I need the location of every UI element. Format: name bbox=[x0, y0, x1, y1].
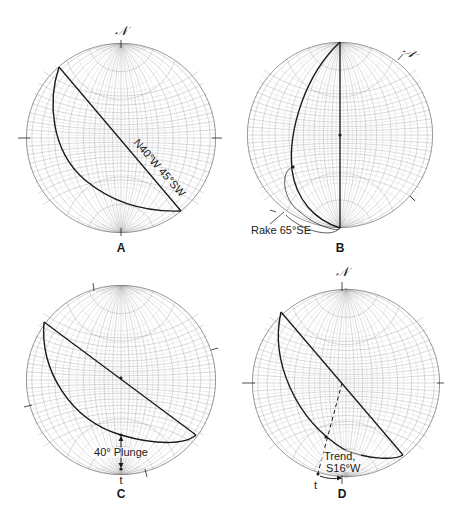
center-point bbox=[120, 377, 123, 380]
panel-a: 𝒩 N40°W 45°SW A bbox=[18, 23, 222, 255]
arrow-head-up bbox=[119, 436, 124, 441]
north-label: 𝒩 bbox=[400, 42, 423, 64]
rake-label: Rake 65°SE bbox=[251, 224, 311, 236]
center-point bbox=[338, 133, 341, 136]
panel-d: 𝒩 Trend, S16°W t D bbox=[242, 264, 444, 501]
t-label: t bbox=[119, 474, 122, 486]
trend-label-line1: Trend, bbox=[324, 450, 355, 462]
side-tick bbox=[270, 210, 276, 212]
rake-leader bbox=[270, 212, 284, 224]
panel-letter: D bbox=[338, 487, 347, 501]
south-tick bbox=[145, 469, 147, 477]
north-label: 𝒩 bbox=[115, 23, 132, 38]
panel-letter: C bbox=[117, 487, 126, 501]
plunge-label: 40° Plunge bbox=[94, 446, 148, 458]
strike-line bbox=[59, 67, 181, 211]
panel-letter: B bbox=[336, 241, 345, 255]
panel-b: 𝒩 Rake 65°SE B bbox=[247, 42, 433, 255]
panel-letter: A bbox=[117, 241, 126, 255]
t-label: t bbox=[314, 479, 317, 491]
trend-label-line2: S16°W bbox=[326, 462, 361, 474]
stereonet-grid-a bbox=[26, 43, 216, 233]
side-tick bbox=[410, 196, 415, 201]
stereonet-figure: 𝒩 N40°W 45°SW A 𝒩 Rake 65°SE B bbox=[0, 0, 462, 523]
trend-point bbox=[317, 473, 320, 476]
west-tick bbox=[24, 405, 32, 407]
plunge-point bbox=[324, 435, 327, 438]
panel-c: 40° Plunge t C bbox=[24, 283, 218, 501]
east-tick bbox=[211, 348, 218, 350]
north-label: 𝒩 bbox=[336, 264, 353, 279]
